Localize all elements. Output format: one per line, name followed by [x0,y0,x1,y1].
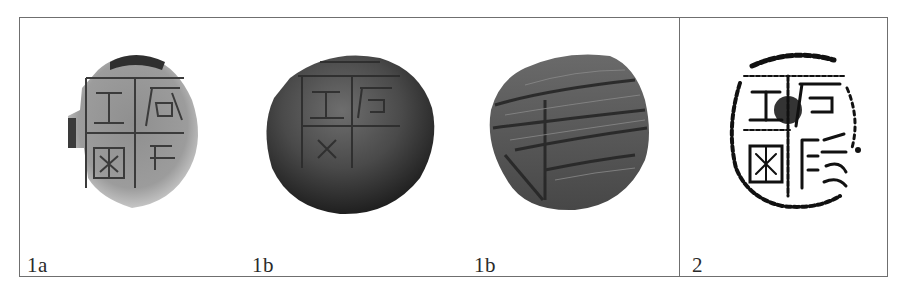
sealing-clay-photo-1b-front [260,48,440,218]
panel-label-1a: 1a [27,255,48,276]
seal-rubbing-2 [722,48,867,213]
sealing-clay-photo-1b-back [485,50,655,215]
sealing-clay-photo-1a [60,48,210,213]
panel-divider [679,17,680,277]
panel-label-2: 2 [692,255,703,276]
panel-label-1b-back: 1b [474,255,496,276]
panel-label-1b-front: 1b [252,255,274,276]
